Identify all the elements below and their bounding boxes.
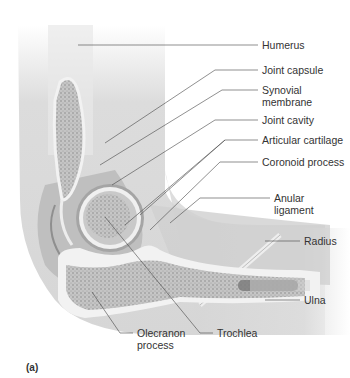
- label-synovial-membrane: Synovial membrane: [262, 84, 312, 108]
- label-humerus: Humerus: [262, 39, 305, 51]
- label-joint-capsule: Joint capsule: [262, 64, 323, 76]
- label-coronoid-process: Coronoid process: [262, 156, 344, 168]
- label-ulna: Ulna: [304, 294, 326, 306]
- label-olecranon-process: Olecranon process: [137, 327, 185, 351]
- label-articular-cartilage: Articular cartilage: [262, 134, 343, 146]
- label-anular-line1: Anular: [274, 192, 314, 204]
- label-radius: Radius: [304, 235, 337, 247]
- label-synovial-line2: membrane: [262, 96, 312, 108]
- label-olecranon-line1: Olecranon: [137, 327, 185, 339]
- label-olecranon-line2: process: [137, 339, 185, 351]
- label-joint-cavity: Joint cavity: [262, 114, 314, 126]
- elbow-joint-illustration: [0, 0, 350, 378]
- label-anular-ligament: Anular ligament: [274, 192, 314, 216]
- label-synovial-line1: Synovial: [262, 84, 312, 96]
- label-trochlea: Trochlea: [217, 327, 257, 339]
- label-anular-line2: ligament: [274, 204, 314, 216]
- panel-label: (a): [26, 362, 38, 373]
